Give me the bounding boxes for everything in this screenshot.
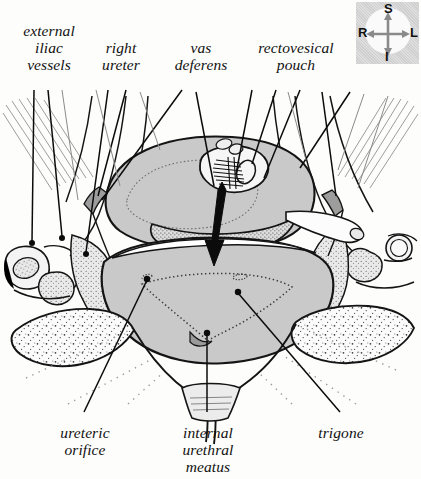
leader-rectovesical-pouch-4 (322, 92, 336, 196)
background-striations-right (338, 98, 418, 188)
leader-external-iliac-vessels (32, 90, 34, 241)
compass-label-superior: S (384, 2, 393, 15)
label-external-iliac-vessels: external iliac vessels (6, 22, 92, 73)
external-iliac-vessels-right (346, 234, 417, 288)
ischiorectal-fat-right (291, 306, 414, 364)
compass-label-right: R (358, 26, 367, 39)
orientation-compass: S I R L (356, 2, 419, 64)
compass-label-inferior: I (385, 50, 389, 63)
label-rectovesical-pouch: rectovesical pouch (240, 39, 352, 73)
label-ureteric-orifice: ureteric orifice (36, 424, 134, 458)
label-right-ureter: right ureter (86, 39, 156, 73)
label-trigone: trigone (300, 424, 382, 441)
external-iliac-vessels-left (4, 246, 81, 305)
figure-page: external iliac vessels right ureter vas … (0, 0, 421, 479)
background-striations (3, 98, 93, 190)
ischiorectal-fat-left (11, 309, 134, 366)
compass-label-left: L (410, 26, 418, 39)
label-internal-urethral-meatus: internal urethral meatus (158, 424, 258, 475)
label-vas-deferens: vas deferens (162, 39, 240, 73)
perineal-body (182, 384, 240, 422)
